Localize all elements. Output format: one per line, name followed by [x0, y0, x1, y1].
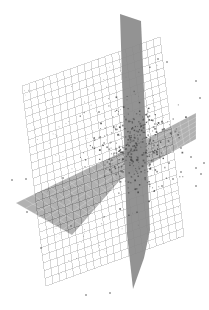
scatter-point — [179, 176, 180, 177]
scatter-point — [129, 137, 131, 139]
scatter-point — [130, 157, 132, 159]
scatter-point — [164, 167, 166, 169]
scatter-point — [138, 139, 139, 140]
scatter-point — [108, 159, 109, 160]
scatter-point — [99, 154, 100, 155]
scatter-point — [104, 250, 105, 251]
scatter-point — [139, 114, 140, 115]
scatter-point — [127, 143, 129, 145]
scatter-point — [135, 170, 136, 171]
scatter-point — [120, 176, 121, 177]
scatter-point — [28, 90, 29, 91]
scatter-point — [127, 152, 129, 154]
scatter-point — [99, 245, 100, 246]
scatter-point — [195, 185, 196, 186]
scatter-point — [107, 161, 108, 162]
scatter-point — [149, 186, 150, 187]
scatter-point — [153, 95, 154, 96]
scatter-point — [68, 165, 69, 166]
scatter-point — [141, 126, 142, 127]
scatter-point — [152, 147, 153, 148]
scatter-point — [137, 135, 138, 136]
scatter-point — [146, 149, 148, 151]
scatter-point — [115, 168, 116, 169]
scatter-point — [159, 108, 160, 109]
scatter-point — [40, 247, 41, 248]
scatter-point — [136, 143, 138, 145]
scatter-point — [47, 191, 48, 192]
scatter-point — [104, 116, 105, 117]
scatter-point — [133, 128, 134, 129]
scatter-point — [95, 151, 96, 152]
scatter-point — [135, 126, 136, 127]
scatter-point — [156, 181, 157, 182]
scatter-point — [137, 131, 139, 133]
scatter-point — [163, 117, 164, 118]
scatter-point — [144, 170, 145, 171]
scatter-point — [120, 134, 121, 135]
scatter-point — [131, 137, 132, 138]
scatter-point — [103, 79, 104, 80]
scatter-point — [117, 178, 118, 179]
scatter-point — [131, 176, 132, 177]
scatter-point — [106, 146, 108, 148]
scatter-point — [138, 162, 139, 163]
scatter-point — [111, 148, 112, 149]
scatter-point — [45, 211, 46, 212]
scatter-point — [56, 237, 57, 238]
scatter-point — [71, 86, 72, 87]
scatter-point — [126, 77, 127, 78]
scatter-point — [83, 236, 84, 237]
scatter-point — [138, 72, 139, 73]
scatter-point — [120, 181, 122, 183]
scatter-point — [146, 122, 147, 123]
scatter-point — [122, 136, 123, 137]
scatter-point — [152, 170, 153, 171]
scatter-point — [149, 67, 150, 68]
scatter-point — [125, 148, 127, 150]
scatter-point — [173, 118, 174, 119]
scatter-point — [143, 154, 144, 155]
scatter-point — [135, 147, 137, 149]
scatter-point — [123, 106, 125, 108]
scatter-point — [133, 140, 135, 142]
scatter-point — [179, 137, 180, 138]
scatter-point — [143, 119, 144, 120]
scatter-point — [126, 144, 127, 145]
scatter-point — [141, 130, 143, 132]
scatter-point — [180, 147, 181, 148]
scatter-point — [128, 108, 129, 109]
scatter-point — [137, 126, 138, 127]
scatter-point — [139, 168, 141, 170]
scatter-point — [126, 156, 127, 157]
scatter-point — [163, 158, 164, 159]
scatter-point — [61, 189, 62, 190]
scatter-point — [130, 159, 132, 161]
scatter-point — [87, 247, 88, 248]
scatter-point — [93, 149, 94, 150]
scatter-point — [116, 96, 118, 98]
scatter-point — [54, 184, 55, 185]
scatter-point — [112, 116, 113, 117]
scatter-point — [157, 58, 158, 59]
scatter-point — [160, 141, 161, 142]
scatter-point — [127, 139, 129, 141]
scatter-point — [119, 159, 120, 160]
scatter-point — [37, 169, 38, 170]
scatter-point — [87, 218, 88, 219]
scatter-point — [152, 100, 153, 101]
scatter-point — [104, 165, 105, 166]
scatter-point — [106, 139, 107, 140]
scatter-point — [111, 153, 112, 154]
scatter-point — [35, 129, 36, 130]
scatter-point — [139, 111, 140, 112]
scatter-point — [159, 156, 160, 157]
scatter-point — [128, 239, 129, 240]
scatter-point — [153, 145, 155, 147]
scatter-point — [136, 188, 138, 190]
scatter-point — [151, 160, 153, 162]
scatter-point — [105, 128, 106, 129]
scatter-point — [146, 58, 147, 59]
scatter-point — [172, 178, 173, 179]
scatter-point — [145, 114, 147, 116]
